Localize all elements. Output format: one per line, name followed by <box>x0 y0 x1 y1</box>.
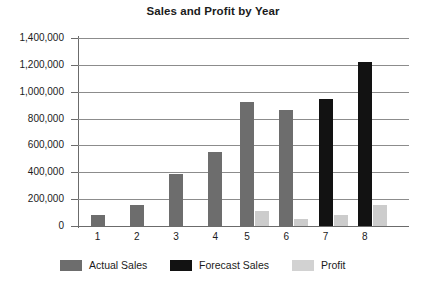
y-axis-label: 200,000 <box>0 193 64 204</box>
y-axis-tick <box>71 38 78 39</box>
y-axis-label: 1,400,000 <box>0 32 64 43</box>
y-axis-tick <box>71 172 78 173</box>
gridline <box>78 226 409 227</box>
bar-profit-6 <box>294 219 308 226</box>
bar-actual-sales-1 <box>91 215 105 226</box>
y-axis-tick <box>71 226 78 227</box>
y-axis-label: 1,200,000 <box>0 59 64 70</box>
legend-label: Profit <box>321 259 346 271</box>
bar-actual-sales-3 <box>169 174 183 226</box>
chart-legend: Actual SalesForecast SalesProfit <box>0 258 426 278</box>
x-axis-label-7: 7 <box>311 231 341 242</box>
legend-item-profit[interactable]: Profit <box>292 258 346 272</box>
bar-actual-sales-2 <box>130 205 144 226</box>
y-axis-label: 1,000,000 <box>0 86 64 97</box>
y-axis-label: 600,000 <box>0 139 64 150</box>
bar-actual-sales-6 <box>279 110 293 226</box>
legend-item-forecast[interactable]: Forecast Sales <box>170 258 269 272</box>
x-axis-label-6: 6 <box>271 231 301 242</box>
legend-swatch-forecast-icon <box>170 260 192 271</box>
y-axis-label: 800,000 <box>0 113 64 124</box>
bar-profit-8 <box>373 205 387 226</box>
sales-and-profit-chart: Sales and Profit by Year 0200,000400,000… <box>0 0 426 291</box>
legend-swatch-actual-icon <box>60 260 82 271</box>
x-axis-label-2: 2 <box>122 231 152 242</box>
y-axis-tick <box>71 92 78 93</box>
legend-label: Forecast Sales <box>199 259 269 271</box>
x-axis-label-4: 4 <box>200 231 230 242</box>
x-axis-label-8: 8 <box>350 231 380 242</box>
y-axis-label: 400,000 <box>0 166 64 177</box>
bar-forecast-sales-7 <box>319 99 333 226</box>
chart-title: Sales and Profit by Year <box>0 5 426 17</box>
y-axis-tick <box>71 145 78 146</box>
y-axis-tick <box>71 199 78 200</box>
gridline <box>78 38 409 39</box>
bar-forecast-sales-8 <box>358 62 372 227</box>
legend-item-actual[interactable]: Actual Sales <box>60 258 147 272</box>
y-axis-tick <box>71 65 78 66</box>
bar-profit-5 <box>255 211 269 226</box>
x-axis-label-1: 1 <box>83 231 113 242</box>
x-axis-label-3: 3 <box>161 231 191 242</box>
y-axis-tick <box>71 119 78 120</box>
bar-profit-7 <box>334 215 348 226</box>
legend-swatch-profit-icon <box>292 260 314 271</box>
bar-actual-sales-5 <box>240 102 254 226</box>
y-axis-label: 0 <box>0 220 64 231</box>
legend-label: Actual Sales <box>89 259 147 271</box>
bar-actual-sales-4 <box>208 152 222 226</box>
plot-area <box>78 38 392 226</box>
x-axis-label-5: 5 <box>232 231 262 242</box>
